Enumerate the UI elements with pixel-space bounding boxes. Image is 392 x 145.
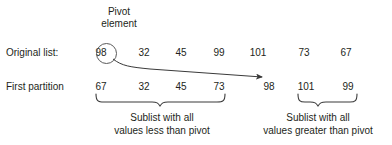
partition-value-6: 99 — [335, 81, 361, 93]
partition-value-0: 67 — [88, 81, 114, 93]
original-value-2: 45 — [168, 47, 194, 59]
first-partition-row-label: First partition — [6, 81, 64, 93]
original-value-1: 32 — [131, 47, 157, 59]
partition-value-4: 98 — [256, 81, 282, 93]
partition-value-2: 45 — [168, 81, 194, 93]
pivot-label-line-2: element — [86, 18, 152, 30]
pivot-circle-highlight — [96, 43, 117, 64]
caption-less-line-2: values less than pivot — [86, 125, 238, 138]
less-than-brace — [96, 94, 225, 106]
pivot-label-line-1: Pivot — [86, 6, 152, 18]
original-value-3: 99 — [206, 47, 232, 59]
pivot-element-label: Pivot element — [86, 6, 152, 30]
caption-less-line-1: Sublist with all — [86, 112, 238, 125]
caption-greater-line-2: values greater than pivot — [245, 125, 391, 138]
partition-value-3: 73 — [206, 81, 232, 93]
partition-value-5: 101 — [293, 81, 319, 93]
quicksort-partition-diagram: Pivot element Original list: 98 32 45 99… — [0, 0, 392, 145]
caption-values-less-than-pivot: Sublist with all values less than pivot — [86, 112, 238, 137]
pivot-move-arrow — [113, 59, 262, 77]
original-list-row-label: Original list: — [6, 47, 58, 59]
original-value-6: 67 — [333, 47, 359, 59]
original-value-4: 101 — [245, 47, 271, 59]
original-value-5: 73 — [291, 47, 317, 59]
caption-greater-line-1: Sublist with all — [245, 112, 391, 125]
greater-than-brace — [298, 94, 357, 106]
caption-values-greater-than-pivot: Sublist with all values greater than piv… — [245, 112, 391, 137]
partition-value-1: 32 — [131, 81, 157, 93]
